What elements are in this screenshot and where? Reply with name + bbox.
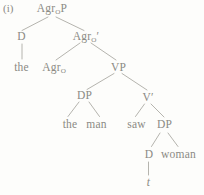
node-label: Agr [37,2,56,14]
edge-agrop-agrobar [56,17,84,31]
node-label: ′ [96,30,99,42]
node-label: Agr [42,61,61,73]
edge-vp-vbar [122,74,147,91]
tree-node-agrop: AgrOP [37,2,67,15]
tree-leaf-the-spec: the [14,61,29,74]
tree-node-v-bar: V′ [142,91,153,104]
edge-agrobar-agro [56,43,80,60]
tree-node-d-object: D [145,148,154,161]
edge-dp-the [68,102,79,117]
edge-vbar-saw [136,104,145,117]
edge-dp-man [89,102,100,117]
edge-vp-dp [87,74,114,90]
tree-edges [0,0,204,195]
node-subscript: O [61,67,66,75]
tree-node-agro-bar: AgrO′ [73,30,99,43]
tree-leaf-man: man [86,118,106,131]
tree-node-agro-head: AgrO [42,61,66,74]
node-label: P [61,2,68,14]
tree-node-vp: VP [111,61,126,74]
example-index-label: (i) [3,2,13,14]
edge-vbar-dp [151,104,164,117]
edge-dp-woman [168,133,178,147]
tree-node-dp-subject: DP [77,89,92,102]
tree-leaf-the-subject: the [63,118,78,131]
syntax-tree-figure: (i) AgrOP D AgrO′ the AgrO VP DP V′ the … [0,0,204,195]
edge-dp-d [152,133,161,147]
tree-node-dp-object: DP [157,118,172,131]
tree-leaf-trace: t [147,176,150,189]
tree-leaf-woman: woman [161,148,196,161]
edge-agrop-d [22,17,48,31]
node-label: Agr [73,30,92,42]
tree-node-d-spec: D [17,30,26,43]
edge-agrobar-vp [91,43,116,60]
tree-leaf-saw: saw [127,118,146,131]
